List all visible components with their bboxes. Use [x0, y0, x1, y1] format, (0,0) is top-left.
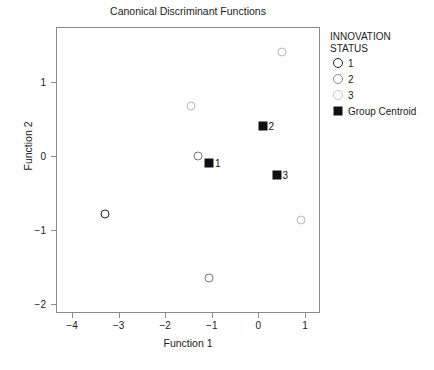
y-tick-label: −1: [35, 225, 46, 236]
group-centroid-label: 1: [215, 158, 221, 169]
group-centroid-label: 2: [269, 121, 275, 132]
group-centroid-marker: [205, 159, 214, 168]
group-centroid-label: 3: [283, 169, 289, 180]
y-tick: [51, 82, 56, 83]
data-point: [100, 209, 109, 218]
y-tick: [51, 230, 56, 231]
data-point: [297, 216, 306, 225]
data-point: [205, 274, 214, 283]
open-circle-icon: [330, 71, 346, 87]
y-tick-label: 1: [40, 77, 46, 88]
x-tick-label: 1: [302, 320, 308, 331]
legend-title-line2: STATUS: [330, 43, 434, 55]
data-point: [277, 48, 286, 57]
legend-item-label: 2: [346, 74, 354, 85]
x-tick-label: −4: [66, 320, 77, 331]
x-axis-label: Function 1: [56, 337, 320, 349]
x-tick: [258, 313, 259, 318]
chart-title: Canonical Discriminant Functions: [0, 5, 376, 17]
legend: INNOVATION STATUS 123Group Centroid: [330, 31, 434, 119]
legend-item-label: 1: [346, 58, 354, 69]
y-tick: [51, 304, 56, 305]
legend-item-label: 3: [346, 90, 354, 101]
x-tick: [212, 313, 213, 318]
legend-item-1[interactable]: 1: [330, 55, 434, 71]
open-circle-icon: [330, 87, 346, 103]
legend-title-line1: INNOVATION: [330, 31, 434, 43]
legend-item-3[interactable]: 3: [330, 87, 434, 103]
x-tick-label: −2: [159, 320, 170, 331]
x-tick: [72, 313, 73, 318]
legend-item-group-centroid[interactable]: Group Centroid: [330, 103, 434, 119]
y-tick: [51, 156, 56, 157]
x-tick-label: −1: [206, 320, 217, 331]
x-tick: [165, 313, 166, 318]
group-centroid-marker: [259, 122, 268, 131]
x-tick-label: −3: [113, 320, 124, 331]
x-tick: [119, 313, 120, 318]
x-tick: [305, 313, 306, 318]
filled-square-icon: [330, 103, 346, 119]
group-centroid-marker: [273, 170, 282, 179]
legend-item-2[interactable]: 2: [330, 71, 434, 87]
x-tick-label: 0: [256, 320, 262, 331]
canonical-discriminant-functions-chart: Canonical Discriminant Functions Functio…: [0, 0, 434, 370]
legend-entries: 123Group Centroid: [330, 55, 434, 119]
y-axis-label: Function 2: [22, 86, 34, 206]
y-tick-label: −2: [35, 299, 46, 310]
data-point: [186, 102, 195, 111]
legend-item-label: Group Centroid: [346, 106, 416, 117]
open-circle-icon: [330, 55, 346, 71]
y-tick-label: 0: [40, 151, 46, 162]
data-point: [193, 152, 202, 161]
